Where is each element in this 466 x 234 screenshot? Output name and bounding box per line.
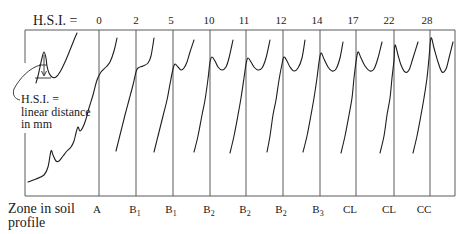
- zone-label: B2: [275, 203, 286, 218]
- inset-label-line3: in mm: [21, 117, 53, 131]
- hsi-value-label: 22: [384, 14, 395, 26]
- hsi-value-label: 2: [133, 14, 139, 26]
- hsi-soil-profile-diagram: H.S.I. = 02510111214172228 H.S.I. = line…: [0, 0, 466, 234]
- hsi-value-labels: 02510111214172228: [96, 14, 433, 26]
- zone-labels: AB1B1B2B2B2B3CLCLCC: [93, 203, 431, 218]
- zone-label: CL: [382, 203, 396, 215]
- column-divider-lines: [99, 30, 430, 196]
- profile-curve-hsi-14: [303, 42, 343, 152]
- zone-label: A: [93, 203, 101, 215]
- profile-curve-hsi-10: [194, 40, 233, 152]
- zone-label: CC: [417, 203, 432, 215]
- zone-label: CL: [343, 203, 357, 215]
- zone-axis-label-line2: profile: [8, 215, 45, 230]
- profile-curves: [28, 38, 453, 182]
- zone-label: B3: [312, 203, 323, 218]
- zone-label: B1: [129, 203, 140, 218]
- inset-peak-curve: [36, 33, 77, 83]
- profile-curve-hsi-5: [154, 40, 194, 152]
- inset-label-line1: H.S.I. =: [21, 92, 59, 106]
- zone-label: B2: [239, 203, 250, 218]
- zone-label: B1: [165, 203, 176, 218]
- profile-curve-hsi-12: [267, 40, 305, 152]
- hsi-value-label: 28: [422, 14, 434, 26]
- hsi-value-label: 5: [168, 14, 174, 26]
- profile-curve-hsi-17: [341, 42, 382, 153]
- profile-curve-hsi-28: [413, 38, 453, 153]
- profile-curve-hsi-22: [380, 42, 418, 153]
- hsi-axis-label: H.S.I. =: [33, 13, 78, 28]
- hsi-value-label: 11: [239, 14, 250, 26]
- hsi-value-label: 0: [96, 14, 102, 26]
- zone-axis-label-line1: Zone in soil: [8, 201, 75, 216]
- hsi-value-label: 14: [312, 14, 324, 26]
- zone-label: B2: [203, 203, 214, 218]
- profile-curve-hsi-2: [116, 38, 154, 151]
- hsi-value-label: 17: [348, 14, 360, 26]
- hsi-value-label: 10: [204, 14, 216, 26]
- hsi-value-label: 12: [276, 14, 287, 26]
- profile-curve-hsi-11: [230, 40, 270, 153]
